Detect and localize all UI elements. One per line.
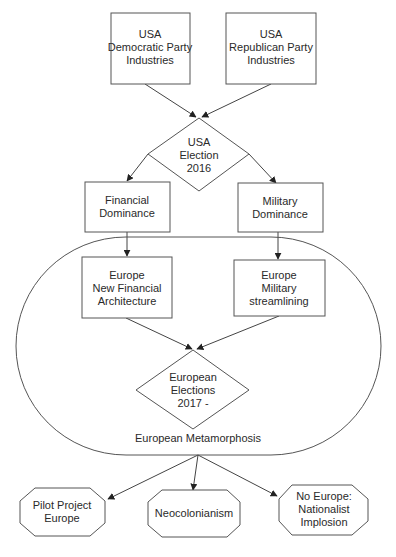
- node-usa-democratic-party: USA Democratic Party Industries: [108, 13, 193, 84]
- edge-usa-election-to-military: [249, 154, 276, 183]
- node-text-line: Pilot Project: [33, 499, 92, 511]
- node-usa-election-2016: USA Election 2016: [148, 118, 249, 191]
- node-text-line: Military: [263, 195, 298, 207]
- node-text-line: No Europe:: [296, 490, 352, 502]
- node-text-line: Architecture: [98, 295, 157, 307]
- node-text-line: Dominance: [252, 208, 308, 220]
- node-text-line: Industries: [247, 54, 295, 66]
- node-text-line: USA: [139, 28, 162, 40]
- edge-rep-to-usa-election: [202, 84, 271, 117]
- node-pilot-project-europe: Pilot Project Europe: [20, 488, 105, 536]
- node-text-line: Nationalist: [298, 503, 349, 515]
- node-no-europe-nationalist-implosion: No Europe: Nationalist Implosion: [279, 485, 368, 535]
- node-text-line: Industries: [126, 54, 174, 66]
- node-text-line: Democratic Party: [108, 41, 193, 53]
- node-text-line: streamlining: [249, 295, 308, 307]
- node-text-line: Financial: [105, 194, 149, 206]
- node-text-line: 2016: [187, 162, 211, 174]
- node-europe-new-financial-architecture: Europe New Financial Architecture: [82, 257, 172, 318]
- edge-metamorphosis-to-neo: [193, 455, 198, 490]
- node-text-line: Europe: [109, 269, 144, 281]
- node-text-line: Military: [262, 282, 297, 294]
- node-text-line: Dominance: [99, 207, 155, 219]
- edge-usa-election-to-financial: [127, 154, 148, 181]
- node-text-line: Europe: [261, 269, 296, 281]
- node-text-line: Implosion: [300, 516, 347, 528]
- node-text-line: 2017 -: [177, 397, 209, 409]
- node-usa-republican-party: USA Republican Party Industries: [226, 13, 316, 84]
- metamorphosis-label: European Metamorphosis: [135, 432, 261, 444]
- node-text-line: Europe: [44, 512, 79, 524]
- edge-eu-military-to-eu-election: [197, 316, 279, 349]
- node-text-line: Election: [179, 149, 218, 161]
- edge-dem-to-usa-election: [145, 84, 196, 117]
- node-europe-military-streamlining: Europe Military streamlining: [234, 260, 325, 316]
- node-european-elections-2017: European Elections 2017 -: [136, 350, 249, 429]
- node-text-line: Neocolonianism: [155, 507, 233, 519]
- node-neocolonianism: Neocolonianism: [148, 490, 240, 537]
- node-text-line: USA: [260, 28, 283, 40]
- flowchart-diagram: European Metamorphosis USA Democratic Pa…: [0, 0, 396, 557]
- node-text-line: USA: [188, 136, 211, 148]
- node-text-line: New Financial: [92, 282, 161, 294]
- node-text-line: Republican Party: [229, 41, 313, 53]
- node-text-line: Elections: [171, 384, 216, 396]
- node-financial-dominance: Financial Dominance: [85, 182, 170, 232]
- edge-eu-financial-to-eu-election: [126, 318, 192, 349]
- node-military-dominance: Military Dominance: [238, 183, 323, 232]
- node-text-line: European: [169, 371, 217, 383]
